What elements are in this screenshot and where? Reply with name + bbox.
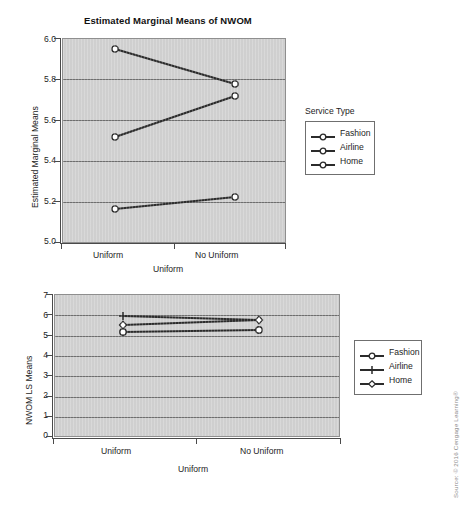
x-axis-tick [285,243,286,249]
y-axis-tick [46,436,53,437]
plot-area-top [62,38,286,243]
legend-label: Home [340,156,363,166]
x-axis-tick [340,438,341,444]
y-tick-label: 0 [30,430,48,440]
y-axis-tick [46,294,53,295]
legend-label: Airline [340,142,364,152]
x-tick-label: Uniform [93,250,123,260]
y-axis-tick [46,355,53,356]
x-axis-tick [53,438,54,444]
series-line-airline [112,93,238,140]
y-tick-label: 5.0 [28,236,56,246]
y-axis-tick [54,201,61,202]
y-tick-label: 1 [30,410,48,420]
y-axis-line-top [60,38,61,242]
x-axis-tick [61,243,62,249]
legend-key-circle-icon [310,128,336,138]
y-axis-tick [46,314,53,315]
legend-item-airline[interactable]: Airline [310,140,369,154]
legend-top[interactable]: Fashion Airline Home [305,121,375,175]
y-axis-tick [54,79,61,80]
y-axis-tick [46,396,53,397]
plot-area-bottom [54,294,340,437]
x-axis-tick [174,243,175,249]
legend-title-top: Service Type [305,106,355,116]
legend-key-circle-icon [359,347,385,357]
series-layer-top [63,39,287,244]
legend-label: Home [389,375,412,385]
x-axis-tick [196,438,197,444]
y-tick-label: 5.2 [28,196,56,206]
series-layer-bottom [55,295,341,438]
legend-item-airline[interactable]: Airline [359,359,416,373]
legend-item-fashion[interactable]: Fashion [310,126,369,140]
legend-label: Airline [389,361,413,371]
legend-label: Fashion [389,347,420,357]
chart-nwom-ls-means: NWOM LS Means 7 6 5 4 3 2 1 0 [0,278,475,509]
legend-key-plus-icon [359,361,385,371]
y-tick-label: 7 [30,290,48,300]
source-credit: Source: © 2016 Cengage Learning® [452,391,459,498]
y-tick-label: 5.4 [28,155,56,165]
y-axis-tick [54,161,61,162]
legend-key-diamond-icon [359,375,385,385]
series-line-home [112,194,238,212]
y-axis-tick [46,335,53,336]
y-axis-tick [46,416,53,417]
series-line-fashion [120,327,262,335]
y-axis-tick [54,120,61,121]
x-axis-line-top [60,243,286,244]
y-tick-label: 5.8 [28,74,56,84]
legend-key-circle-icon [310,156,336,166]
y-tick-label: 6 [30,310,48,320]
x-tick-label: No Uniform [240,446,283,456]
legend-key-circle-icon [310,142,336,152]
legend-item-fashion[interactable]: Fashion [359,345,416,359]
y-tick-label: 5.6 [28,115,56,125]
chart-title-top: Estimated Marginal Means of NWOM [84,15,252,26]
y-tick-label: 6.0 [28,34,56,44]
legend-item-home[interactable]: Home [359,373,416,387]
legend-label: Fashion [340,128,371,138]
x-axis-title-top: Uniform [153,264,183,274]
y-tick-label: 2 [30,390,48,400]
series-line-fashion [112,46,238,87]
legend-item-home[interactable]: Home [310,154,369,168]
chart-estimated-marginal-means: Estimated Marginal Means of NWOM Estimat… [0,0,475,278]
x-tick-label: No Uniform [195,250,238,260]
legend-bottom[interactable]: Fashion Airline Home [354,340,422,395]
y-axis-tick [54,38,61,39]
y-axis-tick [46,375,53,376]
x-axis-title-bottom: Uniform [178,464,208,474]
x-tick-label: Uniform [101,446,131,456]
